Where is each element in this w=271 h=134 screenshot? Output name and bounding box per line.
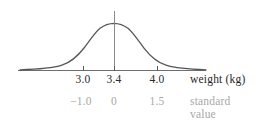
normal-distribution-figure: 3.0 3.4 4.0 weight (kg) −1.0 0 1.5 stand… bbox=[0, 0, 271, 134]
normal-curve bbox=[20, 23, 206, 70]
distribution-plot bbox=[0, 0, 271, 134]
